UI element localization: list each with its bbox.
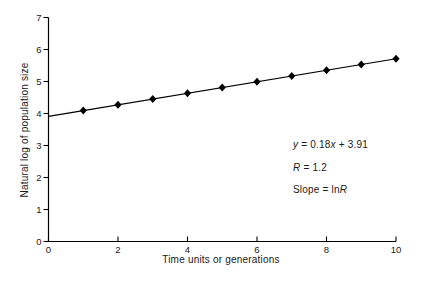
data-point-marker (149, 95, 156, 103)
data-point-marker (114, 101, 121, 109)
x-tick-label: 8 (324, 244, 329, 255)
data-point-marker (253, 78, 260, 86)
annotation-text: Slope = ln (293, 184, 340, 195)
x-tick-label: 0 (46, 244, 51, 255)
y-tick-label: 4 (36, 108, 41, 119)
x-tick-label: 6 (254, 244, 259, 255)
data-point-marker (80, 107, 87, 115)
data-point-marker (184, 89, 191, 97)
annotation-line: Slope = lnR (293, 179, 368, 202)
annotation-line: y = 0.18x + 3.91 (293, 134, 368, 157)
annotation-block: y = 0.18x + 3.91R = 1.2Slope = lnR (293, 134, 368, 202)
y-tick-label: 2 (36, 172, 41, 183)
x-tick-label: 4 (185, 244, 190, 255)
data-point-marker (358, 61, 365, 69)
x-tick-label: 2 (115, 244, 120, 255)
y-axis-label: Natural log of population size (19, 63, 30, 198)
annotation-text: + 3.91 (336, 139, 368, 150)
y-tick-label: 5 (36, 76, 41, 87)
data-point-marker (323, 66, 330, 74)
x-axis-label: Time units or generations (162, 254, 279, 265)
population-growth-chart: 012345670246810 Natural log of populatio… (0, 0, 422, 283)
y-tick-label: 1 (36, 204, 41, 215)
y-tick-label: 3 (36, 140, 41, 151)
data-point-marker (288, 72, 295, 80)
y-tick-label: 7 (36, 12, 41, 23)
y-tick-label: 6 (36, 44, 41, 55)
y-tick-label: 0 (36, 236, 41, 247)
annotation-text: = 0.18 (298, 139, 330, 150)
annotation-line: R = 1.2 (293, 157, 368, 180)
data-point-marker (219, 84, 226, 92)
annotation-variable: R (340, 184, 347, 195)
x-tick-label: 10 (391, 244, 402, 255)
annotation-text: = 1.2 (300, 162, 327, 173)
data-point-marker (392, 55, 399, 63)
